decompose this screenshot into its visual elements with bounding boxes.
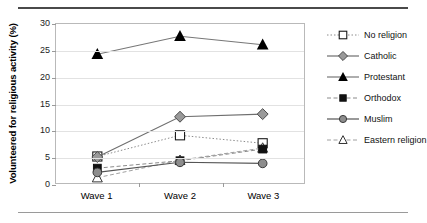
x-tick-label: Wave 3 [247,190,279,201]
gridline [56,105,304,106]
y-axis-label: Volunteered for religious activity (%) [4,14,20,192]
legend-item-catholic[interactable]: Catholic [326,47,424,65]
bottom-rule [18,212,408,213]
legend-item-protestant[interactable]: Protestant [326,68,424,86]
series-muslim [93,158,267,177]
y-tick-label: 0 [26,179,50,189]
legend-label: Catholic [364,51,397,61]
gridline [56,78,304,79]
marker-filled-square [259,145,267,153]
x-tick-mark [223,183,224,187]
y-tick-mark [52,51,56,52]
plot-frame [55,23,305,184]
marker-grey-circle [339,115,346,122]
gridline [56,51,304,52]
y-tick-mark [52,185,56,186]
x-tick-label: Wave 1 [81,190,113,201]
y-tick-mark [52,105,56,106]
legend-key [326,133,360,147]
legend-label: Muslim [364,114,393,124]
legend-item-muslim[interactable]: Muslim [326,110,424,128]
legend-key [326,91,360,105]
legend: No religionCatholicProtestantOrthodoxMus… [326,26,424,154]
y-axis-tick-labels: 051015202530 [22,14,50,192]
marker-grey-circle [93,168,102,177]
y-tick-mark [52,24,56,25]
y-tick-mark [52,78,56,79]
x-axis-tick-labels: Wave 1Wave 2Wave 3 [55,190,305,206]
marker-grey-circle [176,158,185,167]
marker-grey-diamond [175,111,186,122]
gridline [56,131,304,132]
legend-label: Orthodox [364,93,401,103]
legend-key [326,28,360,42]
y-tick-label: 25 [26,45,50,55]
x-tick-label: Wave 2 [164,190,196,201]
legend-key [326,70,360,84]
y-tick-label: 20 [26,72,50,82]
x-tick-mark [139,183,140,187]
legend-item-eastern-religion[interactable]: Eastern religion [326,131,424,149]
marker-filled-triangle [174,30,186,41]
y-tick-label: 10 [26,125,50,135]
legend-item-orthodox[interactable]: Orthodox [326,89,424,107]
marker-grey-diamond [338,51,347,60]
legend-key [326,49,360,63]
series-protestant [91,30,268,59]
y-tick-label: 15 [26,99,50,109]
chart-area: Volunteered for religious activity (%) 0… [0,14,318,204]
legend-label: No religion [364,30,407,40]
gridline [56,158,304,159]
legend-key [326,112,360,126]
legend-label: Protestant [364,72,405,82]
legend-label: Eastern religion [364,135,427,145]
legend-item-no-religion[interactable]: No religion [326,26,424,44]
y-tick-label: 5 [26,152,50,162]
top-rule [18,7,408,9]
marker-open-square [339,31,347,39]
y-tick-mark [52,158,56,159]
marker-grey-diamond [257,109,268,120]
y-tick-label: 30 [26,18,50,28]
marker-filled-square [340,95,346,101]
marker-grey-circle [258,159,267,168]
y-axis-label-text: Volunteered for religious activity (%) [7,23,18,184]
y-tick-mark [52,131,56,132]
